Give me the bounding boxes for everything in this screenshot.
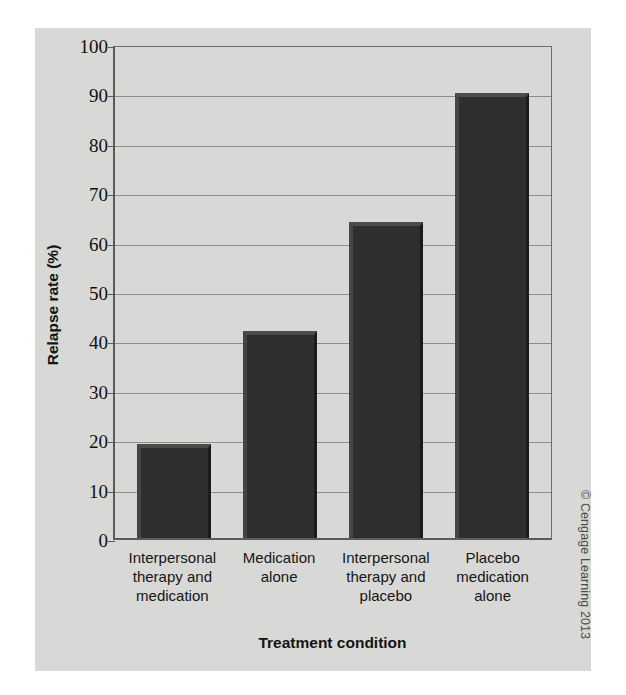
y-tick-mark bbox=[108, 245, 115, 246]
bar bbox=[349, 222, 423, 538]
x-category-label: Medicationalone bbox=[226, 548, 333, 606]
y-tick-label: 10 bbox=[66, 481, 108, 500]
bar-series bbox=[115, 47, 551, 538]
x-category-label: Interpersonaltherapy andplacebo bbox=[333, 548, 440, 606]
x-category-label: Interpersonaltherapy andmedication bbox=[119, 548, 226, 606]
y-tick-label: 20 bbox=[66, 432, 108, 451]
x-category-label-line: medication bbox=[439, 567, 546, 586]
x-category-label-line: alone bbox=[439, 586, 546, 605]
copyright-notice: © Cengage Learning 2013 bbox=[570, 490, 592, 640]
x-axis-title: Treatment condition bbox=[113, 634, 552, 652]
x-category-label-line: alone bbox=[226, 567, 333, 586]
bar bbox=[137, 444, 211, 538]
y-tick-mark bbox=[108, 294, 115, 295]
y-tick-label: 30 bbox=[66, 382, 108, 401]
y-tick-label: 70 bbox=[66, 185, 108, 204]
x-category-label-line: Placebo bbox=[439, 548, 546, 567]
x-category-label-line: therapy and bbox=[119, 567, 226, 586]
y-tick-mark bbox=[108, 393, 115, 394]
x-category-label-line: Interpersonal bbox=[333, 548, 440, 567]
x-category-label-line: placebo bbox=[333, 586, 440, 605]
y-tick-mark bbox=[108, 442, 115, 443]
y-tick-label: 50 bbox=[66, 284, 108, 303]
y-tick-label: 0 bbox=[66, 531, 108, 550]
y-tick-label: 60 bbox=[66, 234, 108, 253]
plot-area bbox=[113, 46, 552, 540]
x-category-label-line: Interpersonal bbox=[119, 548, 226, 567]
y-tick-mark bbox=[108, 96, 115, 97]
y-tick-mark bbox=[108, 47, 115, 48]
y-axis-tick-labels: 1009080706050403020100 bbox=[66, 36, 108, 548]
y-tick-mark bbox=[108, 343, 115, 344]
x-category-label-line: Medication bbox=[226, 548, 333, 567]
bar bbox=[455, 93, 529, 538]
y-tick-label: 100 bbox=[66, 37, 108, 56]
bar bbox=[243, 331, 317, 538]
x-category-label-line: medication bbox=[119, 586, 226, 605]
y-tick-mark bbox=[108, 146, 115, 147]
y-tick-mark bbox=[108, 492, 115, 493]
y-tick-mark bbox=[108, 195, 115, 196]
x-category-label-line: therapy and bbox=[333, 567, 440, 586]
y-tick-label: 90 bbox=[66, 86, 108, 105]
y-axis-title: Relapse rate (%) bbox=[44, 190, 64, 420]
y-tick-mark bbox=[108, 541, 115, 542]
x-category-label: Placebomedicationalone bbox=[439, 548, 546, 606]
y-tick-label: 40 bbox=[66, 333, 108, 352]
x-axis-category-labels: Interpersonaltherapy andmedicationMedica… bbox=[113, 548, 552, 606]
y-tick-label: 80 bbox=[66, 135, 108, 154]
